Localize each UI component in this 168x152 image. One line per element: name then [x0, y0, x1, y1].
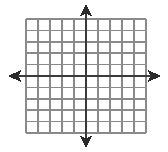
coordinate-plane-svg — [0, 0, 168, 152]
coordinate-grid-figure: Blank coordinate plane grid with four-wa… — [0, 0, 168, 152]
